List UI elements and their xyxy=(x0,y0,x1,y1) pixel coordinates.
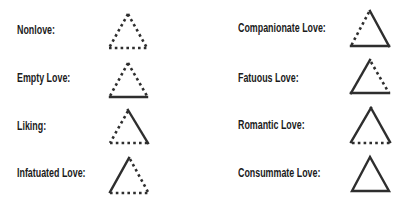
triangle-infatuated-love-icon xyxy=(110,158,148,193)
triangle-nonlove-icon xyxy=(109,14,147,48)
triangles-diagram xyxy=(0,0,405,202)
triangle-consummate-love-icon xyxy=(352,157,389,191)
triangle-fatuous-love-icon xyxy=(351,60,389,93)
triangle-liking-icon xyxy=(110,110,148,143)
triangle-companionate-love-icon xyxy=(351,11,389,46)
triangle-empty-love-icon xyxy=(110,63,147,97)
triangle-romantic-love-icon xyxy=(351,108,390,143)
